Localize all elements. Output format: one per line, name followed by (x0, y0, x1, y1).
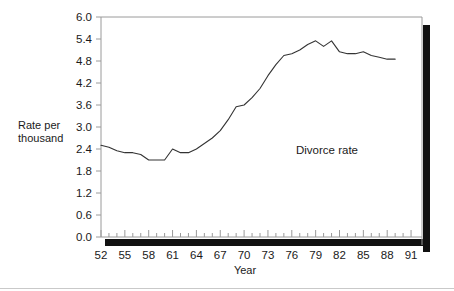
x-axis-tick-label: 88 (381, 249, 394, 261)
x-axis-tick-label: 91 (405, 249, 418, 261)
y-axis-tick-label: 3.6 (76, 99, 92, 111)
y-axis-tick-label: 0.6 (76, 209, 92, 221)
page-bottom-rule (0, 288, 454, 289)
y-axis-title-line1: Rate per (18, 119, 61, 131)
divorce-rate-line-chart: 0.00.61.21.82.43.03.64.24.85.46.0 525558… (0, 0, 454, 291)
x-axis-title: Year (234, 264, 257, 276)
y-axis-tick-label: 1.8 (76, 165, 92, 177)
y-axis-tick-label: 6.0 (76, 11, 92, 23)
y-axis-tick-label: 2.4 (76, 143, 93, 155)
x-axis-tick-label: 82 (333, 249, 346, 261)
y-axis-tick-label: 1.2 (76, 187, 92, 199)
y-axis-tick-label: 5.4 (76, 33, 93, 45)
x-axis-tick-label: 64 (190, 249, 203, 261)
x-axis-tick-label: 70 (238, 249, 251, 261)
series-annotation-divorce-rate: Divorce rate (296, 144, 358, 156)
x-axis-tick-label: 73 (262, 249, 275, 261)
x-axis-tick-label: 58 (142, 249, 155, 261)
x-axis-tick-label: 79 (309, 249, 322, 261)
chart-background (0, 0, 454, 291)
x-axis-tick-label: 76 (285, 249, 298, 261)
x-axis-tick-label: 52 (95, 249, 108, 261)
y-axis-tick-label: 4.2 (76, 77, 92, 89)
y-axis-tick-label: 4.8 (76, 55, 92, 67)
y-axis-title-line2: thousand (18, 132, 63, 144)
y-axis-tick-label: 0.0 (76, 231, 92, 243)
x-axis-tick-label: 67 (214, 249, 227, 261)
y-axis-tick-label: 3.0 (76, 121, 92, 133)
x-axis-tick-label: 55 (118, 249, 131, 261)
x-axis-tick-label: 85 (357, 249, 370, 261)
x-axis-tick-label: 61 (166, 249, 179, 261)
